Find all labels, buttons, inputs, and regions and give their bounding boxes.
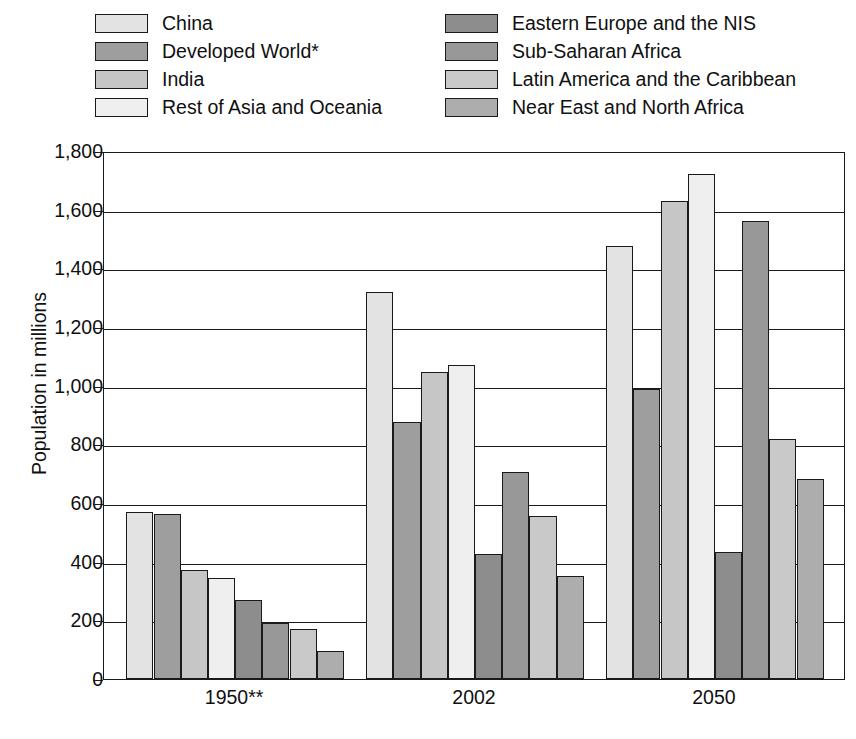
- bar: [529, 516, 556, 679]
- bar: [154, 514, 181, 679]
- bar: [502, 472, 529, 679]
- legend-item: Rest of Asia and Oceania: [95, 94, 382, 120]
- legend-item: Developed World*: [95, 38, 382, 64]
- y-axis-tick-label: 1,800: [11, 142, 103, 162]
- y-axis-tick-mark: [93, 680, 103, 681]
- legend-item-label: Near East and North Africa: [512, 97, 744, 117]
- bar: [421, 372, 448, 679]
- y-axis-ticks: 1,8001,6001,4001,2001,0008006004002000: [0, 124, 103, 684]
- legend-swatch-icon: [95, 70, 148, 89]
- y-axis-tick-mark: [93, 328, 103, 329]
- y-axis-tick-label: 1,600: [11, 201, 103, 221]
- legend-item: China: [95, 10, 382, 36]
- y-axis-tick-label: 0: [11, 670, 103, 690]
- legend-swatch-icon: [95, 14, 148, 33]
- y-axis-tick-mark: [93, 621, 103, 622]
- y-axis-tick-label: 400: [11, 553, 103, 573]
- bar-chart: Population in millions 1,8001,6001,4001,…: [0, 124, 856, 739]
- bar: [290, 629, 317, 679]
- bar: [715, 552, 742, 679]
- x-axis-tick-label: 2002: [452, 686, 495, 709]
- legend-item-label: Latin America and the Caribbean: [512, 69, 796, 89]
- bar: [606, 246, 633, 679]
- legend-item-label: Developed World*: [162, 41, 319, 61]
- x-axis-tick-label: 2050: [692, 686, 735, 709]
- y-axis-tick-mark: [93, 504, 103, 505]
- legend-swatch-icon: [445, 70, 498, 89]
- y-axis-tick-mark: [93, 445, 103, 446]
- legend-item-label: Eastern Europe and the NIS: [512, 13, 756, 33]
- y-axis-tick-label: 600: [11, 494, 103, 514]
- bar: [366, 292, 393, 679]
- bar: [235, 600, 262, 679]
- bar: [448, 365, 475, 679]
- bar: [393, 422, 420, 679]
- chart-legend: China Developed World* India Rest of Asi…: [0, 0, 856, 124]
- legend-item-label: China: [162, 13, 213, 33]
- bar: [661, 201, 688, 679]
- legend-swatch-icon: [445, 14, 498, 33]
- legend-swatch-icon: [95, 42, 148, 61]
- legend-item-label: India: [162, 69, 204, 89]
- legend-column-right: Eastern Europe and the NIS Sub-Saharan A…: [445, 10, 796, 122]
- bar: [126, 512, 153, 679]
- bar: [688, 174, 715, 679]
- y-axis-tick-mark: [93, 387, 103, 388]
- bar: [262, 623, 289, 679]
- bar: [633, 389, 660, 679]
- legend-column-left: China Developed World* India Rest of Asi…: [95, 10, 382, 122]
- legend-item: India: [95, 66, 382, 92]
- bar: [742, 221, 769, 679]
- y-axis-tick-label: 200: [11, 611, 103, 631]
- bar: [769, 439, 796, 679]
- y-axis-tick-label: 800: [11, 435, 103, 455]
- legend-swatch-icon: [445, 98, 498, 117]
- legend-item-label: Sub-Saharan Africa: [512, 41, 681, 61]
- legend-item: Near East and North Africa: [445, 94, 796, 120]
- bar: [797, 479, 824, 679]
- legend-item-label: Rest of Asia and Oceania: [162, 97, 382, 117]
- legend-item: Eastern Europe and the NIS: [445, 10, 796, 36]
- legend-swatch-icon: [95, 98, 148, 117]
- y-axis-tick-mark: [93, 563, 103, 564]
- bar: [475, 554, 502, 679]
- y-axis-tick-label: 1,000: [11, 377, 103, 397]
- y-axis-tick-mark: [93, 211, 103, 212]
- bar: [208, 578, 235, 679]
- y-axis-tick-mark: [93, 269, 103, 270]
- y-axis-tick-mark: [93, 152, 103, 153]
- y-axis-tick-label: 1,400: [11, 259, 103, 279]
- legend-item: Sub-Saharan Africa: [445, 38, 796, 64]
- bar: [181, 570, 208, 679]
- legend-swatch-icon: [445, 42, 498, 61]
- bars-layer: [104, 153, 844, 679]
- bar: [557, 576, 584, 679]
- plot-area: [103, 152, 845, 680]
- bar: [317, 651, 344, 679]
- x-axis-tick-label: 1950**: [205, 686, 264, 709]
- y-axis-tick-label: 1,200: [11, 318, 103, 338]
- legend-item: Latin America and the Caribbean: [445, 66, 796, 92]
